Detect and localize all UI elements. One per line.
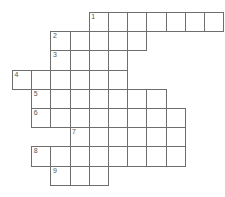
crossword-cell[interactable] — [70, 50, 90, 70]
crossword-cell[interactable] — [204, 12, 224, 32]
crossword-cell[interactable] — [146, 12, 166, 32]
crossword-cell[interactable] — [70, 89, 90, 109]
crossword-cell[interactable] — [50, 146, 70, 166]
crossword-cell[interactable] — [166, 108, 186, 128]
crossword-cell[interactable] — [108, 50, 128, 70]
crossword-cell[interactable]: 6 — [31, 108, 51, 128]
cell-number: 5 — [34, 90, 38, 98]
crossword-cell[interactable] — [70, 31, 90, 51]
crossword-cell[interactable]: 9 — [50, 166, 70, 186]
crossword-cell[interactable] — [108, 89, 128, 109]
cell-number: 4 — [15, 71, 19, 79]
crossword-cell[interactable] — [89, 166, 109, 186]
cell-number: 8 — [34, 147, 38, 155]
crossword-cell[interactable] — [146, 89, 166, 109]
cell-number: 7 — [72, 128, 76, 136]
crossword-cell[interactable] — [108, 146, 128, 166]
crossword-cell[interactable] — [146, 146, 166, 166]
crossword-cell[interactable] — [108, 70, 128, 90]
crossword-cell[interactable]: 1 — [89, 12, 109, 32]
crossword-cell[interactable] — [89, 89, 109, 109]
crossword-cell[interactable] — [89, 70, 109, 90]
crossword-cell[interactable] — [70, 146, 90, 166]
crossword-cell[interactable] — [166, 127, 186, 147]
crossword-cell[interactable] — [166, 146, 186, 166]
crossword-cell[interactable] — [127, 31, 147, 51]
crossword-cell[interactable]: 4 — [12, 70, 32, 90]
crossword-cell[interactable] — [185, 12, 205, 32]
crossword-cell[interactable] — [89, 146, 109, 166]
cell-number: 2 — [53, 32, 57, 40]
crossword-cell[interactable]: 8 — [31, 146, 51, 166]
crossword-cell[interactable]: 3 — [50, 50, 70, 70]
cell-number: 6 — [34, 109, 38, 117]
crossword-cell[interactable] — [108, 31, 128, 51]
crossword-cell[interactable] — [108, 127, 128, 147]
crossword-cell[interactable]: 2 — [50, 31, 70, 51]
crossword-cell[interactable] — [127, 108, 147, 128]
crossword-cell[interactable] — [127, 12, 147, 32]
crossword-cell[interactable] — [89, 108, 109, 128]
crossword-cell[interactable] — [89, 127, 109, 147]
crossword-cell[interactable] — [166, 12, 186, 32]
crossword-cell[interactable]: 5 — [31, 89, 51, 109]
crossword-cell[interactable] — [50, 70, 70, 90]
crossword-cell[interactable] — [70, 108, 90, 128]
cell-number: 1 — [91, 13, 95, 21]
crossword-cell[interactable] — [89, 50, 109, 70]
crossword-cell[interactable] — [127, 89, 147, 109]
crossword-cell[interactable] — [146, 108, 166, 128]
crossword-cell[interactable] — [127, 127, 147, 147]
crossword-grid: 123456789 — [0, 0, 225, 197]
crossword-cell[interactable] — [108, 108, 128, 128]
cell-number: 9 — [53, 167, 57, 175]
crossword-cell[interactable] — [70, 70, 90, 90]
crossword-cell[interactable] — [50, 108, 70, 128]
crossword-cell[interactable] — [146, 127, 166, 147]
crossword-cell[interactable] — [89, 31, 109, 51]
cell-number: 3 — [53, 51, 57, 59]
crossword-cell[interactable] — [31, 70, 51, 90]
crossword-cell[interactable] — [108, 12, 128, 32]
crossword-cell[interactable] — [70, 166, 90, 186]
crossword-cell[interactable]: 7 — [70, 127, 90, 147]
crossword-cell[interactable] — [50, 89, 70, 109]
crossword-cell[interactable] — [127, 146, 147, 166]
